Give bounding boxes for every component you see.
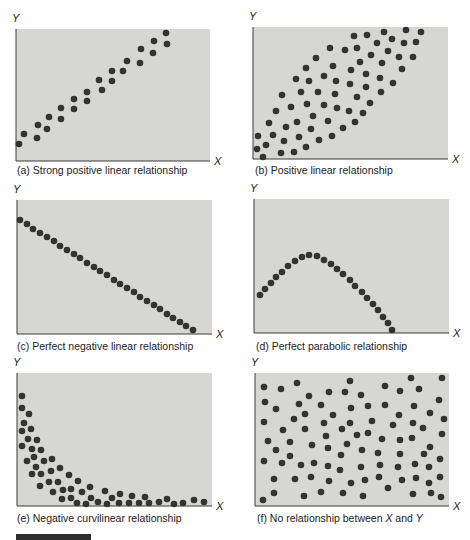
data-point [359,289,366,296]
data-point [144,298,151,305]
data-point [426,464,433,471]
data-point [360,110,367,117]
data-point [365,403,372,410]
data-point [385,48,392,55]
data-point [395,464,402,471]
data-point [396,412,403,419]
data-point [381,29,388,36]
data-point [437,456,444,463]
data-point [273,274,280,281]
data-point [438,494,445,501]
data-point [358,464,365,471]
panel-caption: (d) Perfect parabolic relationship [256,340,407,352]
data-point [104,272,111,279]
footer-bar [16,534,91,540]
data-point [116,500,123,507]
data-point [347,277,354,284]
data-point [296,134,303,141]
data-point [257,292,264,299]
data-point [34,437,41,444]
plot-area [16,29,210,161]
data-point [389,36,396,43]
data-point [325,118,332,125]
data-point [33,464,40,471]
data-point [99,87,106,94]
data-point [126,500,133,507]
data-point [439,375,446,382]
data-point [273,406,280,413]
data-point [340,125,347,132]
data-point [64,247,71,254]
x-axis-label: X [452,327,461,339]
data-point [357,59,364,66]
data-point [24,221,31,228]
data-point [137,294,144,301]
data-point [299,254,306,261]
data-point [190,327,197,334]
data-point [362,477,369,484]
data-point [58,105,65,112]
data-point [313,55,320,62]
scatter-panel-b: YX(b) Positive linear relationship [249,10,460,176]
data-point [283,124,290,131]
data-point [436,397,443,404]
data-point [109,68,116,75]
data-point [156,499,163,506]
x-axis-label: X [215,328,224,340]
data-point [413,39,420,46]
data-point [28,426,35,433]
data-point [315,89,322,96]
data-point [292,476,299,483]
scatter-panel-a: YX(a) Strong positive linear relationshi… [12,12,222,176]
data-point [352,119,359,126]
data-point [326,389,333,396]
data-point [347,378,354,385]
data-point [164,496,171,503]
data-point [66,472,73,479]
data-point [131,289,138,296]
data-point [328,261,335,268]
data-point [397,437,404,444]
data-point [260,154,267,161]
data-point [351,33,358,40]
data-point [294,119,301,126]
data-point [68,486,75,493]
data-point [273,447,280,454]
panel-caption: (f) No relationship between X and Y [257,512,424,524]
data-point [77,255,84,262]
y-axis-label: Y [13,183,21,195]
data-point [426,480,433,487]
data-point [382,383,389,390]
data-point [338,452,345,459]
data-point [17,217,24,224]
data-point [117,281,124,288]
plot-area [17,200,212,334]
data-point [201,499,208,506]
data-point [375,450,382,457]
data-point [285,263,292,270]
data-point [375,307,382,314]
data-point [359,447,366,454]
data-point [266,120,273,127]
data-point [83,501,90,508]
data-point [382,402,389,409]
data-point [346,108,353,115]
data-point [109,495,116,502]
data-point [49,456,56,463]
data-point [37,230,44,237]
data-point [318,489,325,496]
data-point [390,80,397,87]
plot-area [254,199,449,333]
data-point [261,458,268,465]
data-point [329,133,336,140]
data-point [150,50,157,57]
data-point [379,436,386,443]
data-point [411,403,418,410]
data-point [57,243,64,250]
data-point [330,63,337,70]
x-axis-label: X [215,500,224,512]
data-point [44,234,51,241]
data-point [60,487,67,494]
data-point [38,471,45,478]
data-point [102,488,109,495]
